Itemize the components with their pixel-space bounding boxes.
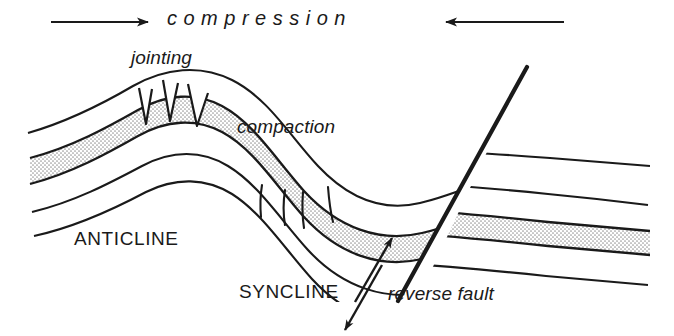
- foot-wall-strata: [398, 151, 650, 285]
- footwall-bed-lower: [398, 263, 648, 285]
- label-reverse-fault: reverse fault: [388, 283, 494, 305]
- label-syncline: SYNCLINE: [239, 281, 339, 303]
- compaction-line-2: [284, 190, 286, 225]
- footwall-bed-top: [404, 183, 648, 205]
- label-compaction: compaction: [237, 116, 335, 138]
- geology-cross-section-figure: compression jointing compaction ANTICLIN…: [0, 0, 674, 336]
- hanging-wall-strata: [28, 70, 655, 325]
- label-anticline: ANTICLINE: [74, 228, 179, 250]
- label-compression: compression: [167, 7, 352, 30]
- stippled-bed-top-contact: [30, 97, 652, 236]
- compaction-line-1: [260, 185, 262, 217]
- label-jointing: jointing: [131, 47, 192, 69]
- reverse-fault-plane: [398, 67, 527, 301]
- footwall-bed-uppermost: [432, 151, 650, 166]
- slip-arrow-down-left: [345, 265, 382, 330]
